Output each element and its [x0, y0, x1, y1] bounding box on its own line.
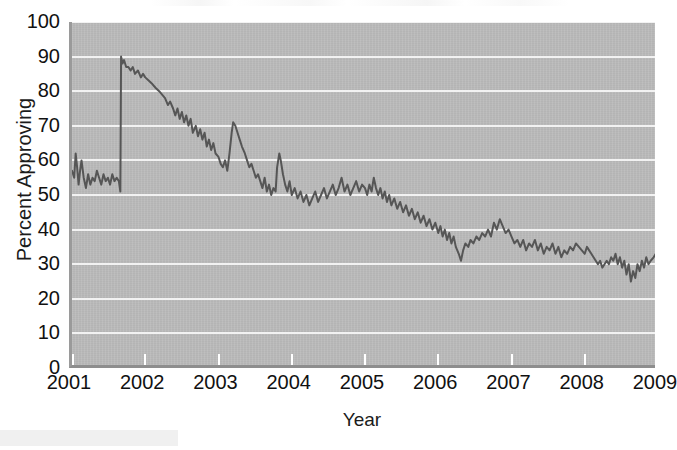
y-tick-label-50: 50 [16, 184, 60, 204]
x-tick-label-2004: 2004 [254, 372, 324, 392]
y-tick-label-80: 80 [16, 80, 60, 100]
y-tick-label-100: 100 [16, 11, 60, 31]
y-tick-label-40: 40 [16, 219, 60, 239]
cropped-title-remnant [150, 0, 570, 6]
x-tick-label-2003: 2003 [181, 372, 251, 392]
series-line-0 [72, 57, 655, 282]
x-tick-label-2006: 2006 [400, 372, 470, 392]
y-tick-label-60: 60 [16, 149, 60, 169]
plot-area [69, 22, 655, 368]
y-tick-label-30: 30 [16, 253, 60, 273]
x-tick-label-2008: 2008 [547, 372, 617, 392]
y-tick-label-20: 20 [16, 288, 60, 308]
x-tick-label-2009: 2009 [620, 372, 677, 392]
y-tick-label-90: 90 [16, 46, 60, 66]
approval-line-series [72, 22, 655, 368]
x-axis-title: Year [68, 409, 656, 431]
x-tick-label-2002: 2002 [107, 372, 177, 392]
x-tick-label-2007: 2007 [474, 372, 544, 392]
y-tick-label-70: 70 [16, 115, 60, 135]
x-tick-label-2005: 2005 [327, 372, 397, 392]
scan-artifact-smudge [0, 430, 178, 446]
y-tick-label-10: 10 [16, 322, 60, 342]
x-tick-label-2001: 2001 [34, 372, 104, 392]
chart-figure: Percent Approving Year 10090807060504030… [0, 0, 677, 450]
